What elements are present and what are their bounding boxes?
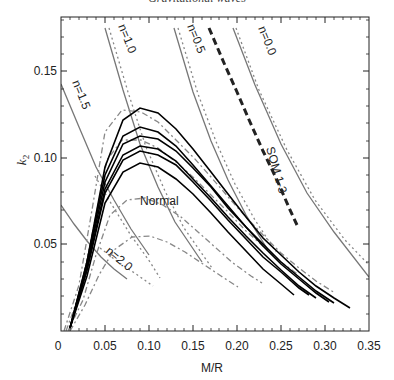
- y-tick-labels: 0.05 0.10 0.15: [34, 64, 58, 251]
- curve-sqm: [209, 28, 297, 225]
- x-axis-label: M/R: [201, 361, 223, 375]
- y-axis-minor-ticks: [61, 20, 369, 314]
- x-tick-label: 0: [55, 339, 62, 353]
- y-tick-label: 0.15: [34, 64, 58, 78]
- label-n0.0: n=0.0: [255, 24, 279, 58]
- x-tick-label: 0.15: [181, 339, 205, 353]
- x-tick-label: 0.35: [357, 339, 381, 353]
- label-n1.5: n=1.5: [69, 78, 93, 112]
- plot-frame: [61, 17, 369, 331]
- curve-n0.5: [174, 28, 268, 250]
- x-axis-ticks: [105, 17, 325, 331]
- polytrope-curves: [61, 28, 369, 279]
- label-n1.0: n=1.0: [115, 22, 139, 56]
- k2-vs-compactness-chart: 0 0.05 0.10 0.15 0.20 0.25 0.30 0.35 M/R…: [0, 0, 394, 380]
- x-tick-label: 0.20: [225, 339, 249, 353]
- x-tick-label: 0.05: [93, 339, 117, 353]
- x-tick-label: 0.10: [137, 339, 161, 353]
- x-tick-label: 0.25: [269, 339, 293, 353]
- svg-text:k2: k2: [14, 155, 31, 165]
- normal-eos-curves: [70, 108, 350, 328]
- label-n0.5: n=0.5: [184, 22, 208, 56]
- x-tick-label: 0.30: [313, 339, 337, 353]
- plot-area: [61, 28, 369, 331]
- y-axis-label: k2: [14, 155, 31, 165]
- x-tick-labels: 0 0.05 0.10 0.15 0.20 0.25 0.30 0.35: [55, 339, 381, 353]
- y-tick-label: 0.05: [34, 237, 58, 251]
- polytrope-dotted-curves: [95, 28, 369, 286]
- curve-n1.0-dotted: [109, 28, 212, 268]
- y-tick-label: 0.10: [34, 151, 58, 165]
- curve-n0.0: [233, 28, 369, 277]
- label-n2.0: n=2.0: [103, 244, 136, 274]
- label-normal: Normal: [140, 194, 179, 208]
